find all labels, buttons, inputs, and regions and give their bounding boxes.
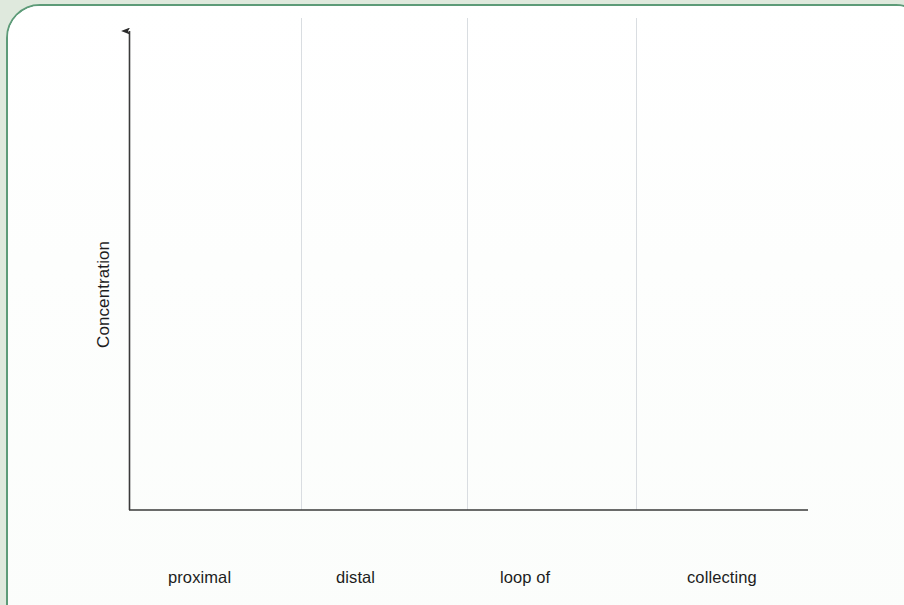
y-axis-title: Concentration (94, 241, 114, 348)
x-category-label-loop-of-henle: loop of Henlé (500, 522, 550, 605)
x-category-label-distal-convoluted-tubule: distal convoluted tubule (336, 522, 417, 605)
x-category-label-proximal-convoluted-tubule: proximal convoluted tubule (168, 522, 249, 605)
concentration-chart: Concentration proximal convoluted tubule… (0, 0, 904, 605)
axes-svg (0, 0, 904, 605)
category-line-1: distal (336, 566, 417, 588)
category-line-1: loop of (500, 566, 550, 588)
x-category-label-collecting-duct: collecting duct (687, 522, 757, 605)
category-line-1: proximal (168, 566, 249, 588)
page-root: Concentration proximal convoluted tubule… (0, 0, 904, 605)
category-line-1: collecting (687, 566, 757, 588)
